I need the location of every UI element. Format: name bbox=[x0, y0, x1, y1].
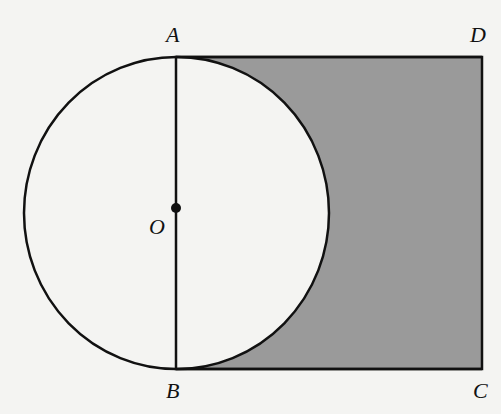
label-o: O bbox=[149, 214, 165, 239]
center-point-o bbox=[171, 203, 181, 213]
label-a: A bbox=[164, 22, 180, 47]
label-c: C bbox=[473, 378, 488, 403]
geometry-diagram: A D O B C bbox=[0, 0, 501, 414]
label-d: D bbox=[469, 22, 486, 47]
label-b: B bbox=[166, 378, 179, 403]
